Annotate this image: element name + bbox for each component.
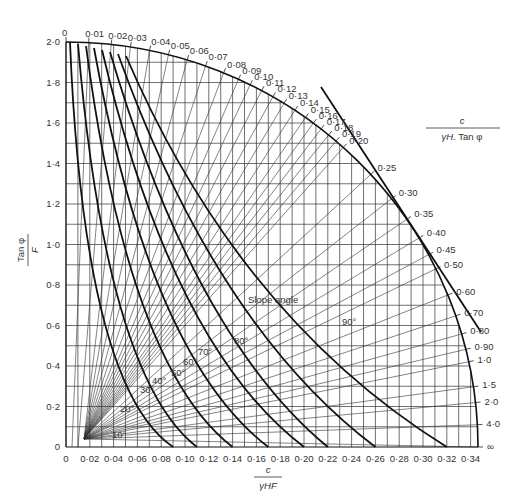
radial-axis-title: c γH. Tan φ — [426, 115, 500, 142]
arc-ratio-label: 0·40 — [427, 227, 446, 238]
svg-text:γHF: γHF — [259, 480, 278, 491]
svg-text:F: F — [29, 246, 40, 253]
y-tick-label: 1·4 — [46, 158, 60, 169]
slope-angle-label: 50° — [171, 367, 186, 378]
x-tick-label: 0 — [63, 453, 68, 464]
arc-ratio-label: 0·90 — [475, 341, 494, 352]
x-tick-label: 0·10 — [175, 453, 194, 464]
slope-angle-label: 20° — [120, 403, 135, 414]
x-tick-label: 0·18 — [271, 453, 290, 464]
svg-text:Tan φ: Tan φ — [15, 238, 26, 262]
svg-text:γH. Tan φ: γH. Tan φ — [442, 131, 483, 142]
slope-angle-label: 70° — [198, 346, 213, 357]
x-tick-label: 0·26 — [366, 453, 385, 464]
slope-angle-label: 40° — [152, 375, 167, 386]
y-tick-label: 0·8 — [46, 279, 60, 290]
y-tick-label: 1·8 — [46, 77, 60, 88]
x-tick-label: 0·30 — [413, 453, 432, 464]
arc-ratio-label: 0·50 — [444, 259, 463, 270]
arc-ratio-label: 0·06 — [190, 45, 209, 56]
slope-angle-label: 60° — [183, 356, 198, 367]
y-tick-label: 1·6 — [46, 117, 60, 128]
arc-ratio-label: 0·01 — [85, 28, 104, 39]
svg-text:c: c — [266, 464, 271, 475]
arc-ratio-label: 0·80 — [470, 325, 489, 336]
y-tick-label: 0·6 — [46, 320, 60, 331]
arc-ratio-label: 4·0 — [486, 418, 500, 429]
arc-ratio-label: 0·35 — [414, 208, 433, 219]
x-tick-label: 0·12 — [199, 453, 218, 464]
x-tick-label: 0·24 — [342, 453, 361, 464]
arc-ratio-label: 1·5 — [482, 379, 496, 390]
x-tick-label: 0·14 — [223, 453, 242, 464]
x-tick-label: 0·32 — [437, 453, 456, 464]
y-tick-label: 2·0 — [46, 36, 60, 47]
x-tick-label: 0·28 — [390, 453, 409, 464]
x-tick-label: 0·34 — [461, 453, 480, 464]
y-axis-title: Tan φ F — [15, 234, 40, 266]
arc-ratio-label: 1·0 — [478, 354, 492, 365]
arc-ratio-label: ∞ — [487, 441, 494, 452]
arc-ratio-label: 0·70 — [464, 307, 483, 318]
slope-angle-labels: 10°20°30°40°50°60°70°80°90° — [112, 316, 357, 440]
arc-ratio-label: 0·05 — [171, 40, 190, 51]
x-tick-label: 0·02 — [80, 453, 99, 464]
y-tick-label: 1·0 — [46, 239, 60, 250]
y-tick-label: 0·2 — [46, 401, 60, 412]
arc-ratio-label: 0·07 — [209, 51, 228, 62]
x-tick-label: 0·16 — [247, 453, 266, 464]
arc-ratio-label: 0·30 — [399, 187, 418, 198]
arc-ratio-label: 0·25 — [377, 162, 396, 173]
svg-text:c: c — [460, 115, 465, 126]
x-tick-label: 0·20 — [294, 453, 313, 464]
x-tick-label: 0·06 — [128, 453, 147, 464]
slope-angle-label: 90° — [342, 316, 357, 327]
arc-ratio-label: 0·60 — [456, 286, 475, 297]
arc-ratio-label: 0·45 — [437, 244, 456, 255]
x-tick-label: 0·08 — [152, 453, 171, 464]
arc-ratio-label: 2·0 — [484, 396, 498, 407]
slope-stability-chart: 00·020·040·060·080·100·120·140·160·180·2… — [0, 0, 521, 500]
arc-ratio-label: 0·04 — [151, 36, 170, 47]
y-tick-label: 0 — [55, 441, 60, 452]
arc-ratio-label: 0·02 — [108, 30, 127, 41]
y-tick-label: 1·2 — [46, 198, 60, 209]
x-tick-label: 0·04 — [104, 453, 123, 464]
arc-ratio-label: 0·03 — [128, 32, 147, 43]
slope-angle-label: 10° — [112, 429, 127, 440]
slope-angle-label: 80° — [234, 335, 249, 346]
y-tick-label: 0·4 — [46, 360, 60, 371]
x-tick-label: 0·22 — [318, 453, 337, 464]
slope-angle-title: Slope angle — [248, 294, 298, 305]
x-axis-title: c γHF — [254, 464, 282, 491]
arc-ratio-label: 0·20 — [349, 135, 368, 146]
arc-ratio-label: 0 — [62, 27, 67, 38]
